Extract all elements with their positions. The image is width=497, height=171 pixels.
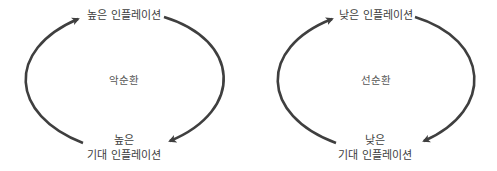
virtuous-cycle-top-label: 낮은 인플레이션 — [339, 9, 413, 23]
virtuous-cycle-bottom-label-line1: 낮은 — [365, 134, 385, 148]
virtuous-cycle-center-label: 선순환 — [361, 73, 391, 87]
cycle-arrows — [0, 0, 497, 171]
vicious-cycle-left-arrow — [26, 19, 83, 143]
vicious-cycle-center-label: 악순환 — [109, 73, 139, 87]
virtuous-cycle-right-arrow — [415, 17, 474, 141]
virtuous-cycle-bottom-label-line2: 기대 인플레이션 — [338, 149, 412, 163]
vicious-cycle-top-label: 높은 인플레이션 — [87, 9, 161, 23]
vicious-cycle-right-arrow — [164, 17, 224, 141]
virtuous-cycle-left-arrow — [278, 19, 336, 143]
vicious-cycle-bottom-label-line2: 기대 인플레이션 — [87, 149, 161, 163]
vicious-cycle-bottom-label-line1: 높은 — [114, 134, 134, 148]
